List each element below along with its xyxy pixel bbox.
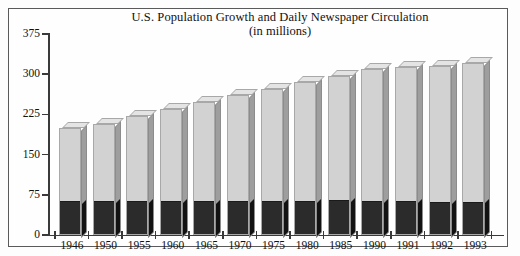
bar-1985: [328, 70, 356, 235]
bar-1990: [361, 63, 389, 235]
x-axis-tick: [121, 231, 123, 239]
x-axis-tick: [54, 231, 56, 239]
y-axis-label: 150: [6, 148, 40, 160]
bar-front-face: [227, 95, 249, 235]
bar-circulation-segment: [94, 201, 114, 234]
bar-side-face: [383, 66, 389, 238]
x-axis-tick: [491, 231, 493, 239]
bar-front-face: [361, 69, 383, 235]
x-axis-tick: [256, 231, 258, 239]
chart-figure: U.S. Population Growth and Daily Newspap…: [0, 0, 520, 256]
bar-circulation-segment: [362, 201, 382, 234]
bar-side-dark-segment: [418, 199, 422, 236]
x-axis-tick: [188, 231, 190, 239]
bar-1955: [126, 110, 154, 235]
bar-side-face: [316, 79, 322, 238]
x-axis-tick: [155, 231, 157, 239]
bar-front-face: [126, 116, 148, 235]
bar-1970: [227, 89, 255, 235]
bar-side-dark-segment: [149, 199, 153, 236]
bar-circulation-segment: [430, 202, 450, 234]
bar-side-dark-segment: [250, 199, 254, 236]
bar-front-face: [328, 76, 350, 235]
bar-side-face: [215, 99, 221, 238]
bar-front-face: [59, 128, 81, 235]
x-axis-tick: [390, 231, 392, 239]
bar-circulation-segment: [127, 201, 147, 234]
bar-1992: [429, 60, 457, 235]
bar-1946: [59, 122, 87, 235]
bar-front-face: [294, 82, 316, 235]
bar-side-dark-segment: [351, 198, 355, 236]
bar-side-dark-segment: [485, 200, 489, 236]
bar-side-face: [182, 106, 188, 238]
chart-subtitle: (in millions): [60, 24, 500, 38]
x-axis-label-1993: 1993: [455, 239, 495, 251]
bar-side-face: [115, 121, 121, 238]
bar-circulation-segment: [194, 201, 214, 234]
y-axis-tick: [42, 73, 50, 75]
y-axis-tick: [42, 234, 50, 236]
bar-1950: [93, 118, 121, 235]
bar-front-face: [261, 89, 283, 235]
bar-circulation-segment: [228, 201, 248, 234]
x-axis-tick: [323, 231, 325, 239]
x-axis-tick: [222, 231, 224, 239]
bar-side-dark-segment: [82, 199, 86, 236]
bar-front-face: [429, 66, 451, 235]
bar-1993: [462, 57, 490, 235]
bar-side-dark-segment: [116, 199, 120, 236]
y-axis-label: 300: [6, 67, 40, 79]
bar-side-face: [81, 125, 87, 238]
bar-circulation-segment: [295, 201, 315, 234]
y-axis-tick: [42, 114, 50, 116]
x-axis-tick: [424, 231, 426, 239]
bar-side-face: [484, 60, 490, 238]
y-axis-label: 375: [6, 27, 40, 39]
bar-side-face: [417, 64, 423, 238]
bar-side-face: [451, 63, 457, 238]
bar-1975: [261, 83, 289, 235]
bar-circulation-segment: [463, 202, 483, 234]
bar-circulation-segment: [396, 201, 416, 234]
bar-1980: [294, 76, 322, 235]
y-axis-label: 225: [6, 107, 40, 119]
y-axis-tick: [42, 33, 50, 35]
y-axis-tick: [42, 154, 50, 156]
bar-1960: [160, 103, 188, 235]
bar-side-dark-segment: [317, 199, 321, 236]
y-axis-tick: [42, 194, 50, 196]
bar-front-face: [395, 67, 417, 235]
bar-circulation-segment: [161, 201, 181, 234]
x-axis-tick: [356, 231, 358, 239]
bar-1965: [193, 96, 221, 235]
bar-side-dark-segment: [384, 199, 388, 236]
y-axis-label: 75: [6, 188, 40, 200]
bar-circulation-segment: [60, 201, 80, 234]
y-axis-label: 0: [6, 228, 40, 240]
chart-title: U.S. Population Growth and Daily Newspap…: [60, 10, 500, 24]
bar-front-face: [462, 63, 484, 235]
bar-side-face: [249, 92, 255, 238]
bar-side-face: [148, 113, 154, 238]
x-axis-tick: [88, 231, 90, 239]
bar-side-dark-segment: [452, 200, 456, 236]
bar-circulation-segment: [262, 201, 282, 234]
x-axis-tick: [457, 231, 459, 239]
bar-side-face: [283, 86, 289, 238]
bar-1991: [395, 61, 423, 235]
y-axis-line: [48, 34, 50, 236]
chart-title-block: U.S. Population Growth and Daily Newspap…: [60, 10, 500, 38]
bar-side-dark-segment: [284, 199, 288, 236]
bar-front-face: [193, 102, 215, 235]
bar-front-face: [160, 109, 182, 235]
bar-side-face: [350, 73, 356, 238]
bar-side-dark-segment: [216, 199, 220, 236]
bar-side-dark-segment: [183, 199, 187, 236]
x-axis-tick: [289, 231, 291, 239]
bar-front-face: [93, 124, 115, 235]
bar-circulation-segment: [329, 200, 349, 234]
